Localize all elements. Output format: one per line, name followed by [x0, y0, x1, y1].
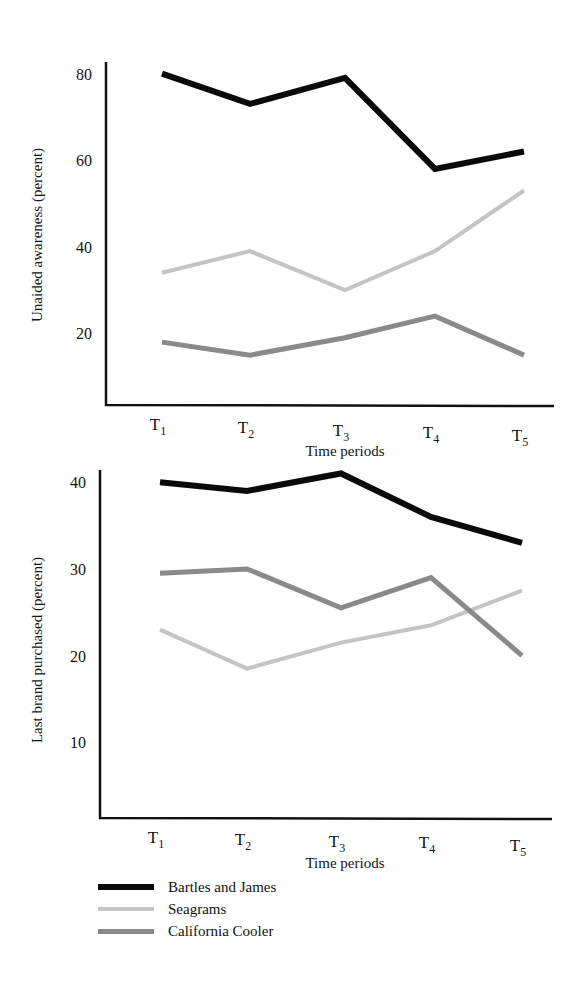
y-tick-label: 40	[70, 474, 86, 491]
legend-item-california-cooler: California Cooler	[98, 920, 276, 942]
x-axis-title: Time periods	[305, 443, 384, 459]
y-axis-title: Unaided awareness (percent)	[29, 148, 46, 322]
x-tick-label: T5	[510, 836, 526, 859]
y-tick-label: 20	[76, 325, 92, 342]
x-tick-label: T2	[238, 418, 254, 441]
axes	[106, 62, 554, 406]
series-line-seagrams	[162, 191, 524, 291]
x-tick-label: T3	[329, 832, 345, 855]
legend-swatch-mid-gray-icon	[98, 929, 154, 934]
awareness-chart: 20406080Unaided awareness (percent)T1T2T…	[29, 62, 554, 459]
axes	[100, 470, 552, 819]
legend-label: Seagrams	[168, 901, 226, 918]
series-line-seagrams	[160, 591, 522, 669]
x-tick-label: T1	[150, 415, 166, 438]
x-axis-title: Time periods	[305, 855, 384, 871]
line-charts: 20406080Unaided awareness (percent)T1T2T…	[0, 0, 579, 991]
figure: 20406080Unaided awareness (percent)T1T2T…	[0, 0, 579, 991]
y-tick-label: 60	[76, 152, 92, 169]
series-line-california-cooler	[162, 316, 524, 355]
y-tick-label: 10	[70, 734, 86, 751]
x-tick-label: T3	[333, 421, 349, 444]
legend-item-bartles-and-james: Bartles and James	[98, 876, 276, 898]
purchase-chart: 10203040Last brand purchased (percent)T1…	[29, 470, 552, 871]
legend-swatch-solid-black-icon	[98, 884, 154, 890]
legend-label: California Cooler	[168, 923, 273, 940]
legend: Bartles and James Seagrams California Co…	[98, 876, 276, 942]
y-tick-label: 80	[76, 66, 92, 83]
y-axis-title: Last brand purchased (percent)	[29, 557, 46, 743]
series-line-bartles-and-james	[160, 474, 522, 543]
series-line-bartles-and-james	[162, 74, 524, 169]
x-tick-label: T4	[423, 423, 439, 446]
y-tick-label: 30	[70, 561, 86, 578]
x-tick-label: T2	[235, 830, 251, 853]
legend-swatch-light-gray-icon	[98, 907, 154, 911]
x-tick-label: T4	[419, 833, 435, 856]
y-tick-label: 20	[70, 648, 86, 665]
x-tick-label: T1	[148, 828, 164, 851]
legend-item-seagrams: Seagrams	[98, 898, 276, 920]
x-tick-label: T5	[512, 426, 528, 449]
legend-label: Bartles and James	[168, 879, 276, 896]
y-tick-label: 40	[76, 239, 92, 256]
